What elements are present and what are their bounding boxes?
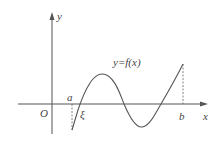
x-axis-label: x xyxy=(202,110,208,122)
point-xi-label: ξ xyxy=(80,108,85,121)
y-axis-arrow-icon xyxy=(50,12,55,20)
origin-label: O xyxy=(40,107,48,119)
function-graph: y x O a b ξ y=f(x) xyxy=(0,0,217,144)
y-axis xyxy=(50,12,55,134)
function-curve xyxy=(72,64,183,130)
x-axis xyxy=(18,102,208,107)
point-a-label: a xyxy=(67,91,73,103)
x-axis-arrow-icon xyxy=(200,102,208,107)
y-axis-label: y xyxy=(56,10,62,22)
point-b-label: b xyxy=(179,110,185,122)
function-label: y=f(x) xyxy=(112,56,141,69)
